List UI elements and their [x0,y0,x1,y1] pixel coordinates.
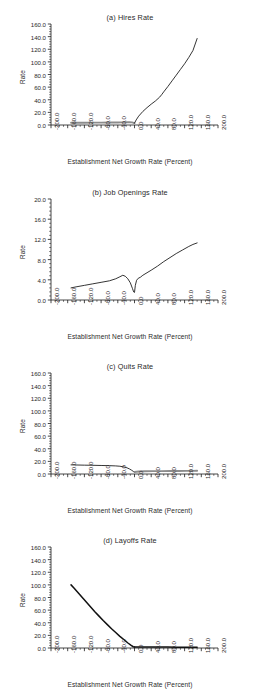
x-tick-label: 120.0 [187,115,194,130]
x-tick-label: -80.0 [104,639,111,653]
x-tick-label: 80.0 [170,118,177,130]
data-series-line [71,243,197,292]
chart-panel-c: (c) Quits Rate 0.020.040.060.080.0100.01… [0,349,260,523]
x-tick-label: -120.0 [87,636,94,653]
x-tick-label: 160.0 [204,290,211,305]
x-tick-label: 80.0 [170,467,177,479]
y-tick-label: 80.0 [6,71,46,78]
x-tick-label: -160.0 [70,462,77,479]
x-tick-label: 40.0 [154,118,161,130]
x-axis-label: Establishment Net Growth Rate (Percent) [0,507,260,514]
y-tick-label: 0.0 [6,297,46,304]
x-tick-label: -120.0 [87,462,94,479]
y-tick-label: 20.0 [6,109,46,116]
x-tick-label: 200.0 [220,464,227,479]
x-axis-label: Establishment Net Growth Rate (Percent) [0,158,260,165]
x-tick-label: 200.0 [220,290,227,305]
y-tick-label: 120.0 [6,569,46,576]
y-tick-label: 60.0 [6,433,46,440]
y-tick-label: 120.0 [6,46,46,53]
y-tick-label: 160.0 [6,544,46,551]
x-tick-label: 40.0 [154,641,161,653]
y-tick-label: 4.0 [6,276,46,283]
x-tick-label: 0.0 [137,122,144,130]
y-tick-label: 20.0 [6,196,46,203]
y-axis-label: Rate [19,70,26,84]
x-tick-label: -200.0 [53,462,60,479]
y-tick-label: 0.0 [6,471,46,478]
y-tick-label: 100.0 [6,407,46,414]
x-tick-label: -80.0 [104,116,111,130]
y-tick-label: 60.0 [6,607,46,614]
x-tick-label: 160.0 [204,638,211,653]
x-tick-label: -200.0 [53,113,60,130]
x-tick-label: 40.0 [154,467,161,479]
x-tick-label: -40.0 [120,116,127,130]
y-tick-label: 120.0 [6,395,46,402]
y-tick-label: 100.0 [6,58,46,65]
x-tick-label: 200.0 [220,638,227,653]
x-tick-label: 0.0 [137,297,144,305]
x-tick-label: -160.0 [70,113,77,130]
x-tick-label: 80.0 [170,293,177,305]
y-tick-label: 100.0 [6,581,46,588]
plot-area-d [51,547,218,648]
y-tick-label: 12.0 [6,236,46,243]
y-tick-label: 80.0 [6,420,46,427]
y-tick-label: 40.0 [6,96,46,103]
data-series-line [135,39,198,124]
x-tick-label: 160.0 [204,464,211,479]
chart-panel-d: (d) Layoffs Rate 0.020.040.060.080.0100.… [0,523,260,697]
chart-panel-a: (a) Hires Rate 0.020.040.060.080.0100.01… [0,0,260,175]
data-series-line [71,585,134,647]
y-axis-label: Rate [19,245,26,259]
x-tick-label: 200.0 [220,115,227,130]
x-tick-label: -200.0 [53,288,60,305]
x-tick-label: 160.0 [204,115,211,130]
figure-sheet: (a) Hires Rate 0.020.040.060.080.0100.01… [0,0,260,697]
y-tick-label: 8.0 [6,256,46,263]
y-tick-label: 140.0 [6,382,46,389]
y-tick-label: 140.0 [6,33,46,40]
y-tick-label: 60.0 [6,84,46,91]
chart-panel-b: (b) Job Openings Rate 0.04.08.012.016.02… [0,175,260,349]
x-tick-label: -40.0 [120,291,127,305]
x-tick-label: -160.0 [70,288,77,305]
x-tick-label: 80.0 [170,641,177,653]
x-tick-label: 120.0 [187,464,194,479]
x-tick-label: 120.0 [187,638,194,653]
x-tick-label: 0.0 [137,471,144,479]
y-tick-label: 80.0 [6,594,46,601]
plot-area-a [51,24,218,125]
y-axis-label: Rate [19,593,26,607]
y-tick-label: 20.0 [6,458,46,465]
x-tick-label: 0.0 [137,645,144,653]
x-tick-label: 120.0 [187,290,194,305]
x-tick-label: -80.0 [104,465,111,479]
y-axis-label: Rate [19,419,26,433]
x-tick-label: -200.0 [53,636,60,653]
y-tick-label: 0.0 [6,645,46,652]
x-tick-label: -40.0 [120,465,127,479]
y-tick-label: 20.0 [6,632,46,639]
x-tick-label: -120.0 [87,288,94,305]
x-tick-label: -40.0 [120,639,127,653]
plot-area-c [51,373,218,474]
x-axis-label: Establishment Net Growth Rate (Percent) [0,333,260,340]
y-tick-label: 160.0 [6,21,46,28]
x-tick-label: -120.0 [87,113,94,130]
y-tick-label: 160.0 [6,370,46,377]
y-tick-label: 16.0 [6,216,46,223]
y-tick-label: 40.0 [6,445,46,452]
plot-area-b [51,199,218,300]
x-tick-label: 40.0 [154,293,161,305]
y-tick-label: 0.0 [6,122,46,129]
x-axis-label: Establishment Net Growth Rate (Percent) [0,681,260,688]
x-tick-label: -160.0 [70,636,77,653]
x-tick-label: -80.0 [104,291,111,305]
y-tick-label: 140.0 [6,556,46,563]
y-tick-label: 40.0 [6,619,46,626]
